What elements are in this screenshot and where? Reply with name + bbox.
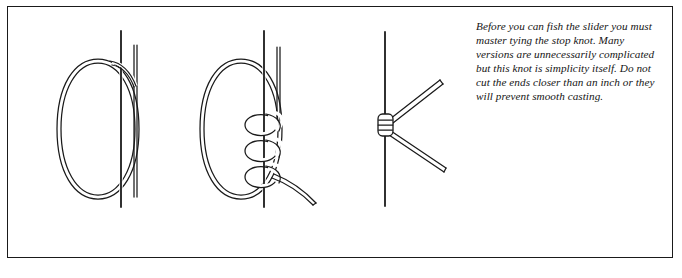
doubled-loop-2 [200,59,282,199]
diagram-step-2: three-coils-wrapped [200,31,316,207]
tag-end-pair-1 [134,45,137,197]
standing-end-pair-2 [277,47,280,121]
tag-end-upper-3 [390,80,443,123]
knot-barrel-3 [378,114,393,136]
tag-end-lower-3 [389,131,446,172]
diagram-step-1: loop-alongside-main-line [57,31,139,207]
figure-page: .ink { fill: none; stroke: #1a1a1a; stro… [0,0,682,278]
instruction-caption: Before you can fish the slider you must … [476,19,658,104]
diagram-step-3: finished-stop-knot [378,32,446,206]
loop-crossover-1 [110,61,136,87]
doubled-loop-1 [57,59,139,199]
